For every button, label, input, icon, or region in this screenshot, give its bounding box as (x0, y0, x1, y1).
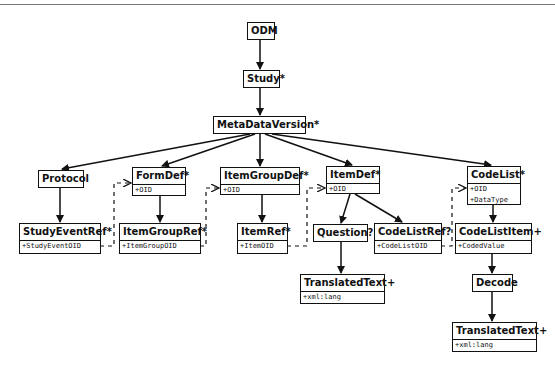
node-title: Decode (473, 275, 512, 291)
node-title: Question? (314, 225, 367, 241)
node-title: CodeListItem+ (456, 224, 531, 241)
node-itemdef: ItemDef* +OID (326, 166, 380, 194)
node-studyeventref: StudyEventRef* +StudyEventOID (19, 223, 101, 254)
node-title: FormDef* (133, 168, 185, 185)
node-translatedtext-question: TranslatedText+ +xml:lang (300, 274, 385, 304)
node-metadataversion: MetaDataVersion* (213, 116, 306, 134)
node-question: Question? (313, 224, 368, 242)
node-attr: +StudyEventOID (20, 241, 100, 252)
node-codelistitem: CodeListItem+ +CodedValue (455, 223, 532, 254)
node-title: ItemGroupDef* (221, 168, 299, 185)
node-odm: ODM (247, 22, 275, 40)
edge-itemdef-question (341, 194, 350, 223)
node-attr: +OID (327, 184, 379, 195)
node-title: Study* (244, 71, 279, 87)
node-protocol: Protocol (38, 170, 84, 188)
node-study: Study* (243, 70, 280, 88)
node-title: CodeList* (468, 167, 520, 184)
node-attr: +xml:lang (453, 340, 536, 351)
node-attr: +OID (221, 185, 299, 196)
node-title: Protocol (39, 171, 83, 187)
node-attr: +CodedValue (456, 241, 531, 252)
node-itemgroupref: ItemGroupRef* +ItemGroupOID (119, 223, 201, 254)
node-title: StudyEventRef* (20, 224, 100, 241)
node-title: TranslatedText+ (453, 323, 536, 340)
node-title: ItemDef* (327, 167, 379, 184)
node-attr: +ItemOID (238, 241, 287, 252)
node-title: TranslatedText+ (301, 275, 384, 292)
node-attr: +xml:lang (301, 292, 384, 303)
node-decode: Decode (472, 274, 513, 292)
node-title: ItemGroupRef* (120, 224, 200, 241)
edge-itemdef-codelistref (355, 194, 402, 222)
edge-mdv-codelist (272, 134, 491, 165)
node-attr: +OID (468, 184, 520, 195)
node-title: CodeListRef? (375, 224, 441, 241)
node-title: ItemRef* (238, 224, 287, 241)
node-formdef: FormDef* +OID (132, 167, 186, 196)
node-itemref: ItemRef* +ItemOID (237, 223, 288, 254)
edge-mdv-formdef (162, 134, 255, 166)
node-attr: +CodeListOID (375, 241, 441, 252)
node-codelist: CodeList* +OID +DataType (467, 166, 521, 205)
node-codelistref: CodeListRef? +CodeListOID (374, 223, 442, 254)
node-title: MetaDataVersion* (214, 117, 305, 133)
node-attr: +OID (133, 185, 185, 196)
node-attr: +DataType (468, 195, 520, 206)
node-attr: +ItemGroupOID (120, 241, 200, 252)
node-title: ODM (248, 23, 274, 39)
edge-mdv-protocol (62, 134, 250, 169)
node-itemgroupdef: ItemGroupDef* +OID (220, 167, 300, 195)
node-translatedtext-decode: TranslatedText+ +xml:lang (452, 322, 537, 352)
